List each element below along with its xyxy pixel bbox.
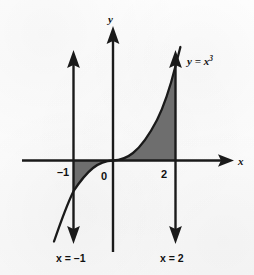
origin-label: 0 — [101, 170, 107, 182]
vertical-line-label-x-2: x = 2 — [160, 252, 184, 264]
curve-label-base: y = x — [185, 55, 210, 67]
x-tick-label-2: 2 — [161, 168, 167, 180]
curve-label: y = x3 — [185, 54, 213, 68]
graph-canvas: x y –1 0 2 x = –1 x = 2 y = x3 — [0, 0, 254, 275]
shaded-region-right — [113, 66, 176, 161]
x-axis-label: x — [237, 155, 244, 167]
x-tick-label-neg1: –1 — [57, 166, 69, 178]
vertical-line-label-x-neg1: x = –1 — [56, 252, 86, 264]
y-axis-label: y — [106, 13, 113, 25]
math-figure-x-cubed: x y –1 0 2 x = –1 x = 2 y = x3 — [0, 0, 254, 275]
curve-label-exponent: 3 — [208, 54, 213, 63]
